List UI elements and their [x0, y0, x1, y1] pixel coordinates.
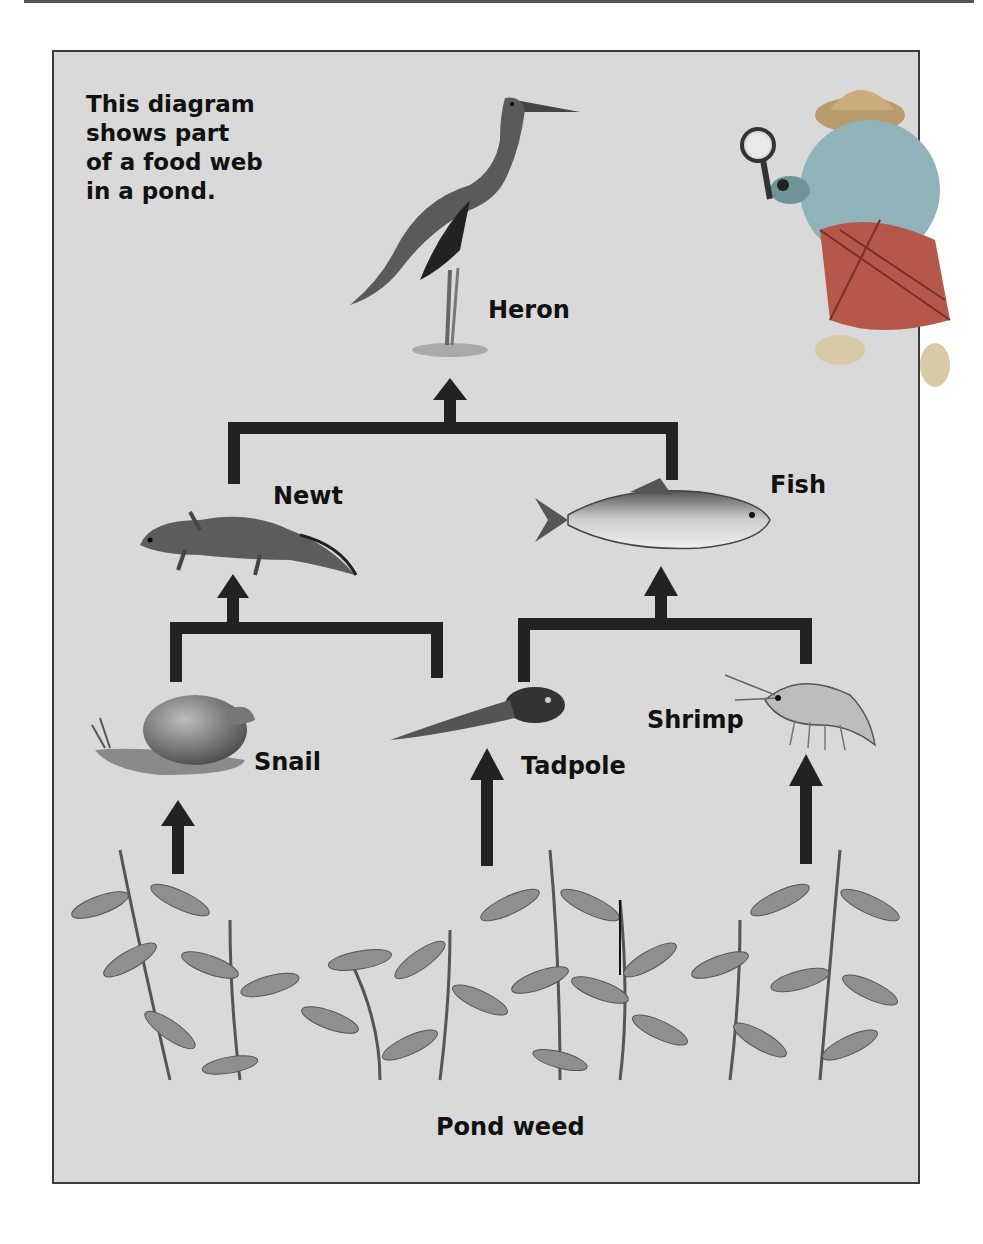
label-fish: Fish [770, 471, 826, 499]
arrow-pondweed-to-shrimp [789, 754, 823, 864]
label-newt: Newt [273, 482, 343, 510]
arrow-pondweed-to-tadpole [470, 748, 504, 866]
label-tadpole: Tadpole [521, 752, 626, 780]
snail-illustration [92, 695, 255, 775]
newt-illustration [140, 512, 356, 575]
arrow-newt-fish-to-heron [228, 378, 678, 484]
tadpole-illustration [390, 687, 565, 740]
label-snail: Snail [254, 748, 321, 776]
shrimp-illustration [725, 675, 875, 750]
fish-illustration [535, 478, 770, 549]
label-pond-weed: Pond weed [436, 1113, 585, 1141]
label-shrimp: Shrimp [647, 706, 744, 734]
arrow-tadpole-shrimp-to-fish [518, 566, 812, 682]
label-heron: Heron [488, 296, 570, 324]
arrow-pondweed-to-snail [161, 800, 195, 874]
food-web-graphics [0, 0, 983, 1244]
pond-weed-illustration [69, 850, 903, 1080]
arrow-snail-tadpole-to-newt [170, 574, 443, 682]
detective-dog-mascot-icon [742, 90, 950, 387]
